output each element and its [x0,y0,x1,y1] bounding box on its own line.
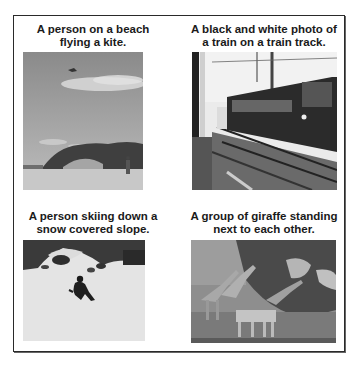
train-track-photo [192,52,337,190]
caption-kite: A person on a beach flying a kite. [13,23,173,49]
caption-line: flying a kite. [13,36,173,49]
caption-line: next to each other. [183,223,345,236]
caption-line: A person skiing down a [13,210,173,223]
caption-line: A person on a beach [13,23,173,36]
caption-line: A black and white photo of [183,23,345,36]
caption-line: A group of giraffe standing [183,210,345,223]
caption-line: snow covered slope. [13,223,173,236]
caption-line: a train on a train track. [183,36,345,49]
caption-train: A black and white photo of a train on a … [183,23,345,49]
giraffes-photo [191,240,336,343]
caption-skiing: A person skiing down a snow covered slop… [13,210,173,236]
caption-giraffes: A group of giraffe standing next to each… [183,210,345,236]
beach-kite-photo [23,52,143,190]
skiing-photo [23,240,145,341]
